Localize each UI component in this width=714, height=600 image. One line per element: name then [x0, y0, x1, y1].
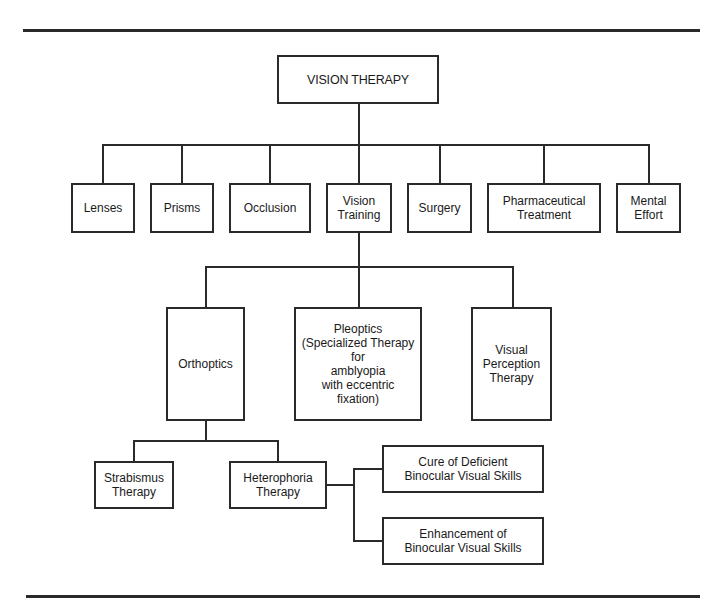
connector-mental-effort — [648, 144, 650, 183]
connector-vision-training — [358, 144, 360, 183]
connector-visual-perception — [512, 266, 514, 307]
node-prisms: Prisms — [150, 183, 214, 233]
node-surgery: Surgery — [407, 183, 472, 233]
top-rule — [23, 29, 700, 32]
node-pleoptics: Pleoptics (Specialized Therapy for ambly… — [294, 307, 422, 421]
connector-level3-bar — [133, 440, 279, 442]
connector-heterophoria — [277, 440, 279, 461]
node-visual-perception-therapy: Visual Perception Therapy — [471, 307, 552, 421]
node-lenses: Lenses — [71, 183, 135, 233]
connector-cure — [353, 468, 382, 470]
node-heterophoria-therapy: Heterophoria Therapy — [229, 461, 327, 509]
node-orthoptics: Orthoptics — [166, 307, 245, 421]
connector-heterophoria-out — [326, 484, 355, 486]
connector-orthoptics — [205, 266, 207, 307]
node-cure-deficient-binocular-skills: Cure of Deficient Binocular Visual Skill… — [382, 445, 544, 493]
node-strabismus-therapy: Strabismus Therapy — [94, 461, 174, 509]
connector-pharmaceutical — [543, 144, 545, 183]
connector-pleoptics — [358, 266, 360, 307]
connector-surgery — [439, 144, 441, 183]
bottom-rule — [26, 595, 700, 598]
connector-enhancement — [353, 540, 382, 542]
connector-vision-training-down — [358, 232, 360, 268]
connector-lenses — [102, 144, 104, 183]
connector-orthoptics-down — [205, 420, 207, 442]
connector-occlusion — [269, 144, 271, 183]
node-enhancement-binocular-skills: Enhancement of Binocular Visual Skills — [382, 517, 544, 565]
node-pharmaceutical-treatment: Pharmaceutical Treatment — [487, 183, 601, 233]
connector-level4-bracket — [353, 468, 355, 542]
node-mental-effort: Mental Effort — [616, 183, 681, 233]
node-occlusion: Occlusion — [229, 183, 311, 233]
connector-prisms — [181, 144, 183, 183]
connector-level1-bar — [102, 144, 650, 146]
connector-root-down — [358, 103, 360, 146]
node-vision-training: Vision Training — [326, 183, 392, 233]
node-vision-therapy: VISION THERAPY — [277, 55, 439, 104]
connector-strabismus — [133, 440, 135, 461]
